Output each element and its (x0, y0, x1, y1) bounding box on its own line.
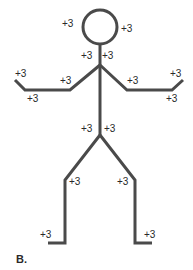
label-trunk-right: +3 (104, 124, 115, 134)
left-leg-line (48, 135, 100, 243)
right-leg-line (100, 135, 152, 243)
left-arm-line (15, 65, 100, 90)
label-head-right: +3 (121, 24, 132, 34)
panel-label: B. (16, 253, 27, 265)
label-right-forearm: +3 (166, 94, 177, 104)
label-neck-left: +3 (81, 51, 92, 61)
label-right-foot: +3 (144, 230, 155, 240)
stick-figure-diagram: +3 +3 +3 +3 +3 +3 +3 +3 +3 +3 +3 +3 +3 +… (0, 0, 193, 270)
stick-figure-drawing (0, 0, 193, 270)
label-left-foot: +3 (40, 230, 51, 240)
label-trunk-left: +3 (81, 124, 92, 134)
label-left-thigh: +3 (69, 177, 80, 187)
label-left-hand: +3 (15, 69, 26, 79)
label-head-left: +3 (62, 19, 73, 29)
label-neck-right: +3 (102, 51, 113, 61)
label-right-hand: +3 (170, 69, 181, 79)
label-right-thigh: +3 (117, 177, 128, 187)
label-left-upper-arm: +3 (60, 76, 71, 86)
label-right-upper-arm: +3 (127, 76, 138, 86)
label-left-forearm: +3 (27, 94, 38, 104)
head-circle (83, 10, 117, 44)
